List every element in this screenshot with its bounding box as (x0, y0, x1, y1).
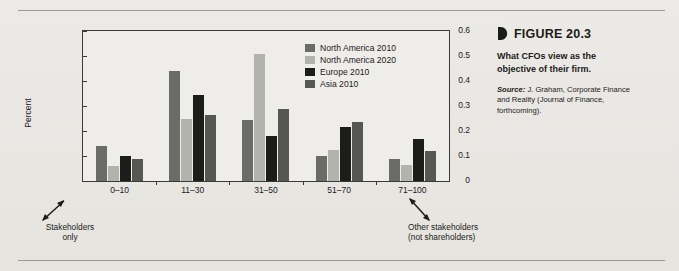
bar (242, 120, 253, 181)
y-axis-tick-label: 0.3 (440, 100, 470, 110)
right-annotation-line1: Other stakeholders (408, 222, 548, 232)
bar-group: 31–50 (229, 31, 302, 181)
bar (389, 159, 400, 182)
left-annotation-line2: only (22, 232, 118, 242)
legend-swatch (305, 68, 315, 76)
bar (205, 115, 216, 181)
y-axis-tick (83, 156, 87, 157)
x-axis-tick-label: 0–10 (110, 185, 129, 195)
figure-heading: FIGURE 20.3 (497, 26, 637, 41)
legend-item: North America 2010 (305, 43, 396, 53)
legend-item: North America 2020 (305, 55, 396, 65)
bar (401, 165, 412, 181)
left-arrow-icon (36, 198, 70, 224)
right-arrow-icon (404, 196, 438, 224)
y-axis-tick (83, 81, 87, 82)
x-axis-tick (156, 181, 157, 185)
legend-item: Europe 2010 (305, 67, 396, 77)
x-axis-tick-label: 51–70 (327, 185, 351, 195)
legend-label: Europe 2010 (320, 67, 369, 77)
y-axis-tick (83, 106, 87, 107)
bar (181, 119, 192, 182)
y-axis-title: Percent (23, 98, 33, 127)
bar (132, 159, 143, 182)
plot-area: 0–1011–3031–5051–7071–100 North America … (82, 30, 450, 182)
bar (352, 122, 363, 181)
bottom-divider (18, 260, 665, 261)
x-axis-tick (376, 181, 377, 185)
bar (425, 151, 436, 181)
bar (340, 127, 351, 181)
y-axis-tick-label: 0.5 (440, 50, 470, 60)
x-axis-tick (303, 181, 304, 185)
y-axis-tick (83, 31, 87, 32)
legend-label: North America 2020 (320, 55, 396, 65)
x-axis-tick-label: 11–30 (181, 185, 204, 195)
figure-label: FIGURE 20.3 (514, 27, 591, 41)
bar (413, 139, 424, 182)
chart-container: Percent 0–1011–3031–5051–7071–100 North … (30, 22, 470, 204)
figure-source-prefix: Source: (497, 85, 525, 94)
bar (266, 136, 277, 181)
bar (328, 150, 339, 181)
left-annotation-line1: Stakeholders (22, 222, 118, 232)
figure-bullet-icon (497, 26, 508, 41)
bar (278, 109, 289, 182)
y-axis-tick-label: 0.2 (440, 125, 470, 135)
bar (316, 156, 327, 181)
legend-label: North America 2010 (320, 43, 396, 53)
top-divider (18, 10, 665, 11)
chart-legend: North America 2010North America 2020Euro… (305, 43, 396, 91)
y-axis-tick (83, 181, 87, 182)
bar (108, 166, 119, 181)
bar (120, 156, 131, 181)
figure-page: Percent 0–1011–3031–5051–7071–100 North … (0, 0, 679, 271)
x-axis-tick-label: 31–50 (254, 185, 278, 195)
legend-swatch (305, 80, 315, 88)
bar-group: 11–30 (156, 31, 229, 181)
legend-label: Asia 2010 (320, 79, 358, 89)
y-axis-tick (83, 56, 87, 57)
y-axis-tick-label: 0.1 (440, 150, 470, 160)
y-axis-tick-label: 0.4 (440, 75, 470, 85)
figure-caption: What CFOs view as the objective of their… (497, 50, 637, 76)
right-annotation: Other stakeholders (not shareholders) (408, 222, 548, 243)
bar-group: 0–10 (83, 31, 156, 181)
left-annotation: Stakeholders only (22, 222, 118, 243)
y-axis-tick-label: 0.6 (440, 25, 470, 35)
y-axis-tick-label: 0 (440, 175, 470, 185)
legend-swatch (305, 44, 315, 52)
x-axis-tick (229, 181, 230, 185)
bar (254, 54, 265, 182)
legend-item: Asia 2010 (305, 79, 396, 89)
bar (169, 71, 180, 181)
figure-source: Source: J. Graham, Corporate Finance and… (497, 85, 637, 117)
figure-sidebar: FIGURE 20.3 What CFOs view as the object… (497, 26, 637, 117)
bar (96, 146, 107, 181)
legend-swatch (305, 56, 315, 64)
x-axis-tick-label: 71–100 (398, 185, 426, 195)
bar (193, 95, 204, 181)
y-axis-tick (83, 131, 87, 132)
right-annotation-line2: (not shareholders) (408, 232, 548, 242)
